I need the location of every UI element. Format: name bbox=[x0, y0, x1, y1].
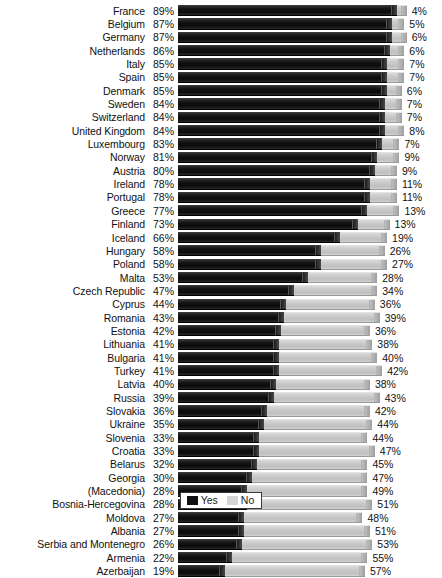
bar-cap-no bbox=[401, 6, 407, 15]
stacked-bar bbox=[178, 325, 370, 336]
stacked-bar bbox=[178, 112, 402, 123]
stacked-bar bbox=[178, 392, 380, 403]
stacked-bar bbox=[178, 565, 365, 576]
chart-row: Sweden84%7% bbox=[0, 97, 442, 110]
yes-value-label: 84% bbox=[0, 125, 174, 136]
bar-segment-no bbox=[286, 299, 375, 310]
bar-segment-yes bbox=[178, 272, 308, 283]
bar-segment-no bbox=[392, 32, 407, 43]
yes-value-label: 77% bbox=[0, 205, 174, 216]
bar-cap-no bbox=[359, 566, 365, 575]
bar-segment-yes bbox=[178, 72, 387, 83]
bar-segment-no bbox=[340, 232, 387, 243]
bar-segment-no bbox=[264, 419, 372, 430]
bar-segment-no bbox=[232, 552, 367, 563]
bar-segment-yes bbox=[178, 419, 264, 430]
yes-value-label: 33% bbox=[0, 446, 174, 457]
bar-cap-no bbox=[361, 460, 367, 469]
bar-cap-no bbox=[398, 126, 404, 135]
yes-value-label: 86% bbox=[0, 45, 174, 56]
yes-value-label: 41% bbox=[0, 365, 174, 376]
stacked-bar bbox=[178, 339, 372, 350]
bar-segment-yes bbox=[178, 85, 387, 96]
chart-row: Latvia40%38% bbox=[0, 378, 442, 391]
bar-segment-no bbox=[370, 178, 397, 189]
bar-segment-yes bbox=[178, 18, 392, 29]
chart-row: Slovenia33%44% bbox=[0, 431, 442, 444]
chart-row: Bulgaria41%40% bbox=[0, 351, 442, 364]
yes-value-label: 33% bbox=[0, 432, 174, 443]
bar-segment-yes bbox=[178, 525, 244, 536]
bar-cap-no bbox=[398, 73, 404, 82]
chart-row: Netherlands86%6% bbox=[0, 44, 442, 57]
bar-segment-yes bbox=[178, 365, 279, 376]
stacked-bar bbox=[178, 72, 404, 83]
no-value-label: 7% bbox=[409, 72, 424, 83]
stacked-bar bbox=[178, 552, 367, 563]
stacked-bar bbox=[178, 18, 404, 29]
no-value-label: 36% bbox=[375, 325, 396, 336]
yes-value-label: 58% bbox=[0, 245, 174, 256]
bar-segment-no bbox=[392, 18, 404, 29]
bar-segment-no bbox=[385, 125, 405, 136]
legend-swatch-yes-icon bbox=[187, 496, 198, 505]
no-value-label: 9% bbox=[402, 165, 417, 176]
chart-row: Denmark85%6% bbox=[0, 84, 442, 97]
bar-segment-no bbox=[242, 539, 372, 550]
legend-item-yes: Yes bbox=[187, 495, 218, 506]
stacked-bar bbox=[178, 512, 362, 523]
bar-segment-no bbox=[377, 152, 399, 163]
bar-cap-no bbox=[398, 59, 404, 68]
chart-row: Italy85%7% bbox=[0, 57, 442, 70]
bar-segment-yes bbox=[178, 339, 279, 350]
chart-row: Germany87%6% bbox=[0, 31, 442, 44]
chart-row: Lithuania41%38% bbox=[0, 338, 442, 351]
bar-segment-no bbox=[225, 565, 365, 576]
bar-segment-no bbox=[382, 138, 399, 149]
yes-value-label: 85% bbox=[0, 59, 174, 70]
stacked-bar bbox=[178, 138, 399, 149]
no-value-label: 11% bbox=[402, 192, 422, 203]
stacked-bar bbox=[178, 178, 397, 189]
legend-item-no: No bbox=[227, 495, 254, 506]
bar-segment-yes bbox=[178, 325, 281, 336]
bar-segment-yes bbox=[178, 285, 294, 296]
no-value-label: 57% bbox=[370, 566, 391, 577]
bar-cap-no bbox=[396, 113, 402, 122]
no-value-label: 28% bbox=[382, 272, 403, 283]
yes-value-label: 78% bbox=[0, 179, 174, 190]
stacked-bar bbox=[178, 312, 380, 323]
yes-value-label: 41% bbox=[0, 352, 174, 363]
stacked-bar bbox=[178, 365, 382, 376]
yes-value-label: 53% bbox=[0, 272, 174, 283]
no-value-label: 55% bbox=[372, 552, 393, 563]
yes-value-label: 83% bbox=[0, 139, 174, 150]
bar-cap-no bbox=[391, 193, 397, 202]
yes-value-label: 42% bbox=[0, 325, 174, 336]
yes-value-label: 40% bbox=[0, 379, 174, 390]
yes-value-label: 39% bbox=[0, 392, 174, 403]
no-value-label: 42% bbox=[375, 405, 396, 416]
bar-cap-no bbox=[364, 526, 370, 535]
yes-value-label: 89% bbox=[0, 5, 174, 16]
legend-swatch-no-icon bbox=[227, 496, 238, 505]
chart-row: Russia39%43% bbox=[0, 391, 442, 404]
chart-row: Azerbaijan19%57% bbox=[0, 564, 442, 577]
chart-row: Albania27%51% bbox=[0, 524, 442, 537]
bar-cap-no bbox=[393, 153, 399, 162]
no-value-label: 4% bbox=[412, 5, 427, 16]
stacked-bar bbox=[178, 285, 377, 296]
bar-segment-no bbox=[367, 205, 399, 216]
bar-cap-no bbox=[379, 246, 385, 255]
chart-row: France89%4% bbox=[0, 4, 442, 17]
no-value-label: 27% bbox=[392, 259, 413, 270]
bar-segment-no bbox=[259, 445, 375, 456]
chart-row: Norway81%9% bbox=[0, 151, 442, 164]
chart-row: Moldova27%48% bbox=[0, 511, 442, 524]
bar-segment-no bbox=[321, 245, 385, 256]
no-value-label: 19% bbox=[392, 232, 413, 243]
chart-row: Spain85%7% bbox=[0, 71, 442, 84]
no-value-label: 7% bbox=[404, 139, 419, 150]
no-value-label: 48% bbox=[368, 512, 389, 523]
no-value-label: 36% bbox=[380, 299, 401, 310]
